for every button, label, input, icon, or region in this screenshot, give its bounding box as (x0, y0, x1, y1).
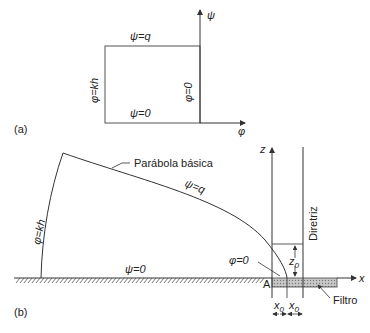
x0-label-1: x0 (273, 299, 285, 314)
phi-zero-label: φ=0 (229, 254, 250, 266)
psi-axis-label: ψ (207, 9, 215, 21)
psi-zero-ground-label: ψ=0 (125, 263, 146, 275)
z0-label: z0 (288, 255, 300, 270)
directrix-label: Diretriz (307, 206, 319, 241)
phi-kh-curve (41, 153, 63, 278)
panel-b: x z Diretriz z0 x0 x0 Parábola básica ψ=… (14, 143, 365, 318)
panel-b-tag: (b) (14, 306, 27, 318)
parabola-label: Parábola básica (134, 157, 214, 169)
psi-zero-label: ψ=0 (130, 107, 151, 119)
flow-net-diagram: ψ φ ψ=q ψ=0 φ=kh φ=0 (a) x z Diretriz z0 (0, 0, 370, 333)
phi-kh-label: φ=kh (88, 78, 100, 103)
point-a-label: A (263, 278, 271, 290)
parabola-leader (112, 163, 130, 168)
z-axis-label: z (259, 143, 266, 155)
basic-parabola (63, 153, 287, 278)
filter-label: Filtro (333, 294, 357, 306)
phi-axis-label: φ (238, 125, 245, 137)
ground-hatching (16, 278, 264, 283)
psi-q-curve-label: ψ=q (183, 177, 207, 196)
x0-label-2: x0 (288, 299, 300, 314)
x-axis-label: x (358, 272, 365, 284)
phi-kh-curve-label: φ=kh (30, 218, 47, 245)
panel-a: ψ φ ψ=q ψ=0 φ=kh φ=0 (a) (14, 9, 245, 137)
phi-zero-leader (258, 262, 280, 276)
psi-q-label: ψ=q (130, 30, 151, 42)
panel-a-tag: (a) (14, 123, 27, 135)
phi-zero-label: φ=0 (182, 81, 194, 102)
filter-block (272, 278, 337, 287)
